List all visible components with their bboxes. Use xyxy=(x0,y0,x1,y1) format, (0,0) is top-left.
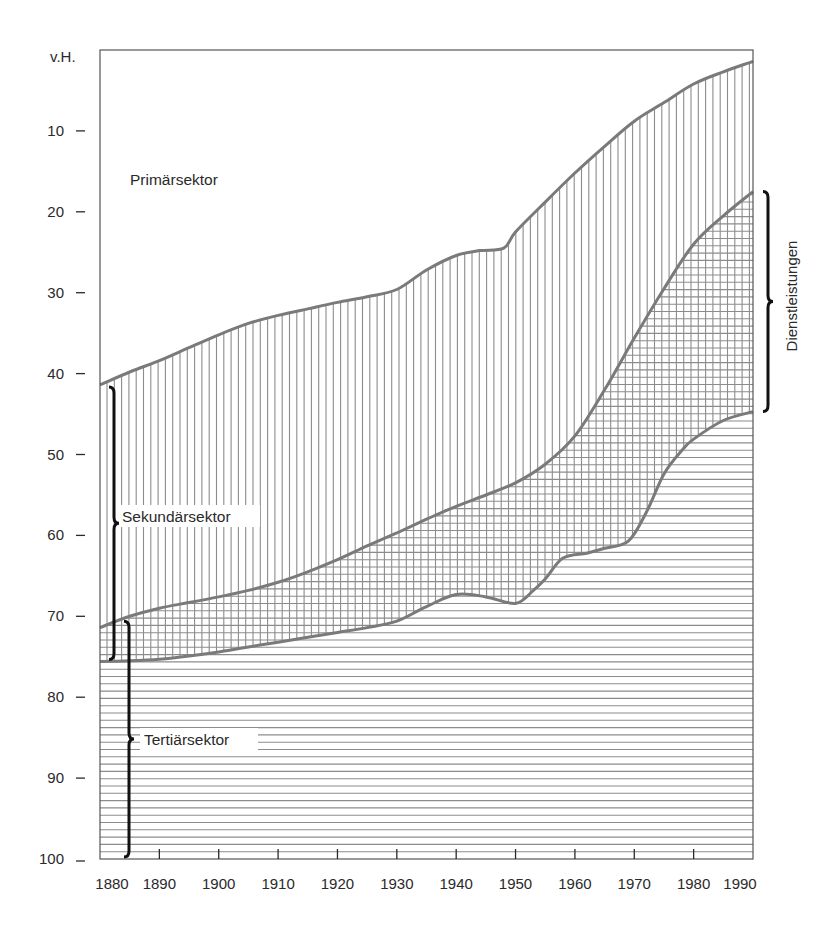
x-tick-label: 1880 xyxy=(95,875,128,892)
tertiary-sector-label: Tertiärsektor xyxy=(144,731,229,748)
y-tick-label: 70 xyxy=(47,607,64,624)
x-tick-label: 1960 xyxy=(558,875,591,892)
x-tick-label: 1980 xyxy=(677,875,710,892)
x-tick-label: 1890 xyxy=(143,875,176,892)
y-axis: 102030405060708090100 xyxy=(39,122,85,867)
tertiary-bracket xyxy=(124,621,134,857)
y-tick-label: 60 xyxy=(47,526,64,543)
x-tick-label: 1970 xyxy=(618,875,651,892)
y-tick-label: 10 xyxy=(47,122,64,139)
services-bracket xyxy=(763,192,773,412)
y-tick-label: 100 xyxy=(39,850,64,867)
y-tick-label: 90 xyxy=(47,769,64,786)
y-tick-label: 50 xyxy=(47,446,64,463)
x-tick-label: 1990 xyxy=(723,875,756,892)
y-tick-label: 30 xyxy=(47,284,64,301)
x-tick-label: 1910 xyxy=(261,875,294,892)
services-label: Dienstleistungen xyxy=(783,241,800,352)
x-tick-label: 1930 xyxy=(380,875,413,892)
secondary-sector-label: Sekundärsektor xyxy=(122,508,231,525)
x-tick-label: 1950 xyxy=(499,875,532,892)
y-tick-label: 20 xyxy=(47,203,64,220)
x-axis: 1880189019001910192019301940195019601970… xyxy=(95,849,756,892)
y-tick-label: 80 xyxy=(47,688,64,705)
y-tick-label: 40 xyxy=(47,365,64,382)
x-tick-label: 1940 xyxy=(439,875,472,892)
sector-employment-chart: 102030405060708090100 188018901900191019… xyxy=(0,0,839,933)
primary-sector-label: Primärsektor xyxy=(130,171,218,188)
x-tick-label: 1900 xyxy=(202,875,235,892)
y-unit-label: v.H. xyxy=(50,48,76,65)
x-tick-label: 1920 xyxy=(321,875,354,892)
